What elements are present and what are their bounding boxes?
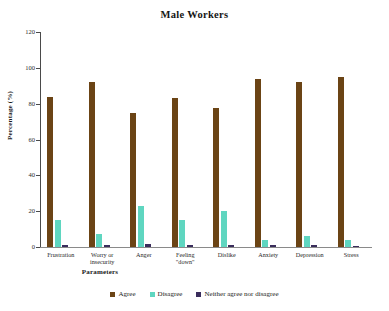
legend-item[interactable]: Disagree [150,290,183,298]
legend-item[interactable]: Agree [110,290,135,298]
bar-agree [338,77,344,247]
y-axis-tick-label: 40 [29,172,36,179]
y-axis-tick-mark [36,247,40,248]
legend-label: Agree [118,290,135,298]
y-axis-title: Percentage (%) [6,91,14,140]
bar-group [206,32,248,247]
y-axis-tick-label: 100 [25,65,35,72]
bar-agree [213,108,219,247]
bar-disagree [345,240,351,247]
bar-group [123,32,165,247]
bar-group [40,32,82,247]
bar-neither-agree-nor-disagree [228,245,234,247]
y-axis-tick-label: 20 [29,208,36,215]
bar-agree [172,98,178,247]
legend-item[interactable]: Neither agree nor disagree [196,290,278,298]
bar-group [289,32,331,247]
male-workers-bar-chart: Male Workers Percentage (%) 020406080100… [0,0,389,311]
legend-swatch-icon [150,292,155,297]
bar-agree [89,82,95,247]
x-axis-title: Parameters [40,268,160,276]
bar-agree [130,113,136,247]
bar-disagree [221,211,227,247]
bar-agree [47,97,53,248]
bar-group [165,32,207,247]
bar-disagree [304,236,310,247]
y-axis-tick-label: 120 [25,29,35,36]
chart-legend: AgreeDisagreeNeither agree nor disagree [0,290,389,298]
bar-neither-agree-nor-disagree [311,245,317,247]
bar-neither-agree-nor-disagree [353,246,359,247]
y-axis-tick-label: 0 [32,244,35,251]
bar-neither-agree-nor-disagree [270,245,276,247]
chart-title: Male Workers [0,9,389,20]
bar-disagree [179,220,185,247]
legend-label: Disagree [158,290,183,298]
bar-neither-agree-nor-disagree [104,245,110,247]
legend-label: Neither agree nor disagree [204,290,278,298]
y-axis-tick-label: 60 [29,136,36,143]
y-axis-tick-label: 80 [29,100,36,107]
x-axis-category-label: Stress [325,251,379,258]
bar-group [331,32,373,247]
bar-disagree [96,234,102,247]
bar-agree [296,82,302,247]
bar-group [248,32,290,247]
bar-neither-agree-nor-disagree [62,245,68,247]
bar-disagree [262,240,268,247]
plot-area: 020406080100120 [40,32,372,247]
bar-disagree [138,206,144,247]
bar-neither-agree-nor-disagree [145,244,151,247]
x-axis-line [40,247,372,248]
bar-agree [255,79,261,247]
bar-neither-agree-nor-disagree [187,245,193,247]
bar-disagree [55,220,61,247]
legend-swatch-icon [196,292,201,297]
bar-group [82,32,124,247]
legend-swatch-icon [110,292,115,297]
